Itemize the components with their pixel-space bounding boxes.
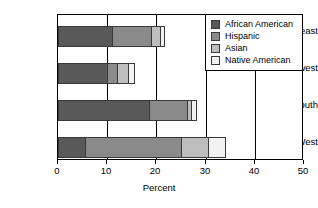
- x-axis-tick-30: [205, 160, 206, 164]
- legend-item-african-american: African American: [211, 19, 298, 30]
- x-axis-tick-label-30: 30: [190, 165, 220, 176]
- bar-segment-hispanic: [149, 100, 188, 121]
- x-axis-tick-50: [303, 160, 304, 164]
- bar-segment-native-american: [191, 100, 196, 121]
- x-axis-title: Percent: [0, 182, 318, 193]
- bar-segment-african-american: [58, 137, 86, 158]
- bar-segment-native-american: [208, 137, 226, 158]
- legend-label: Asian: [225, 43, 248, 54]
- legend-item-hispanic: Hispanic: [211, 31, 298, 42]
- legend-swatch-icon: [211, 44, 220, 53]
- legend-swatch-icon: [211, 32, 220, 41]
- bar-segment-african-american: [58, 100, 150, 121]
- legend: African American Hispanic Asian Native A…: [205, 14, 303, 71]
- x-axis-tick-label-10: 10: [91, 165, 121, 176]
- bar-segment-hispanic: [85, 137, 182, 158]
- bar-midwest: [58, 63, 135, 84]
- legend-label: Hispanic: [225, 31, 260, 42]
- legend-label: African American: [225, 19, 293, 30]
- x-axis-tick-20: [155, 160, 156, 164]
- bar-west: [58, 137, 226, 158]
- bar-segment-african-american: [58, 26, 113, 47]
- legend-swatch-icon: [211, 20, 220, 29]
- x-axis-tick-label-20: 20: [140, 165, 170, 176]
- legend-swatch-icon: [211, 56, 220, 65]
- x-axis-tick-label-40: 40: [239, 165, 269, 176]
- bar-segment-native-american: [160, 26, 164, 47]
- x-axis-tick-40: [254, 160, 255, 164]
- bar-segment-native-american: [128, 63, 135, 84]
- bar-northeast: [58, 26, 165, 47]
- bar-segment-african-american: [58, 63, 108, 84]
- x-axis-tick-label-0: 0: [42, 165, 72, 176]
- legend-label: Native American: [225, 55, 291, 66]
- x-axis-tick-0: [57, 160, 58, 164]
- legend-item-asian: Asian: [211, 43, 298, 54]
- legend-item-native-american: Native American: [211, 55, 298, 66]
- bar-segment-hispanic: [112, 26, 152, 47]
- bar-segment-asian: [181, 137, 209, 158]
- bar-south: [58, 100, 197, 121]
- x-axis-tick-10: [106, 160, 107, 164]
- x-axis-tick-label-50: 50: [288, 165, 318, 176]
- stacked-bar-chart: Northeast Midwest South West 01020304050…: [0, 0, 318, 208]
